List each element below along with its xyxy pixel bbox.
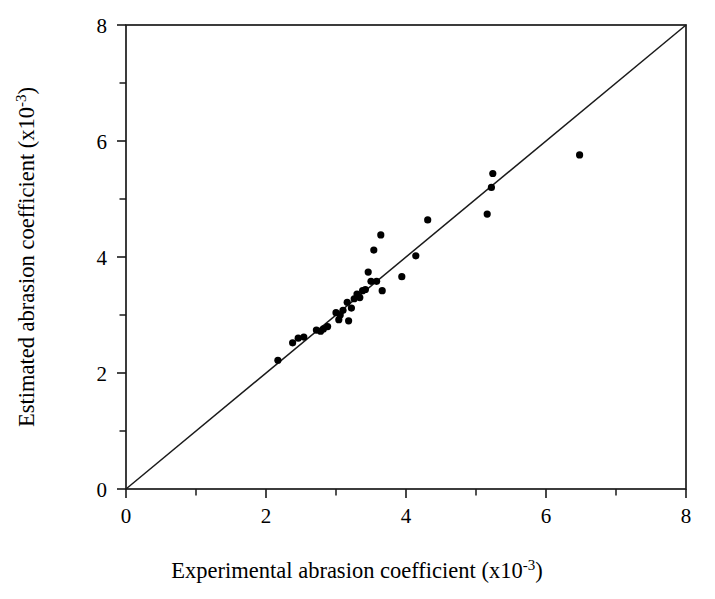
data-point bbox=[356, 294, 363, 301]
data-point bbox=[576, 151, 583, 158]
data-point bbox=[377, 231, 384, 238]
data-point bbox=[484, 210, 491, 217]
data-point bbox=[489, 170, 496, 177]
data-point bbox=[373, 278, 380, 285]
data-point bbox=[424, 216, 431, 223]
data-point bbox=[365, 268, 372, 275]
x-axis-title: Experimental abrasion coefficient (x10-3… bbox=[171, 557, 542, 583]
y-tick-label: 2 bbox=[97, 362, 108, 386]
svg-text:Estimated abrasion coefficient: Estimated abrasion coefficient (x10-3) bbox=[13, 87, 39, 427]
scatter-plot-canvas: 02468 02468 Experimental abrasion coeffi… bbox=[0, 0, 715, 599]
svg-text:Experimental abrasion coeffici: Experimental abrasion coefficient (x10-3… bbox=[171, 557, 542, 583]
data-point bbox=[274, 357, 281, 364]
x-tick-label: 2 bbox=[261, 504, 272, 528]
y-tick-label: 6 bbox=[97, 130, 108, 154]
y-tick-label: 0 bbox=[97, 478, 108, 502]
x-tick-label: 0 bbox=[121, 504, 132, 528]
x-tick-label: 4 bbox=[401, 504, 412, 528]
data-point bbox=[345, 317, 352, 324]
data-point bbox=[488, 184, 495, 191]
x-tick-label: 8 bbox=[681, 504, 692, 528]
data-point bbox=[348, 304, 355, 311]
abrasion-coefficient-scatter-figure: 02468 02468 Experimental abrasion coeffi… bbox=[0, 0, 715, 599]
y-tick-label: 8 bbox=[97, 14, 108, 38]
data-point bbox=[300, 333, 307, 340]
data-point bbox=[370, 246, 377, 253]
data-point bbox=[324, 323, 331, 330]
data-point bbox=[412, 252, 419, 259]
x-tick-label: 6 bbox=[541, 504, 552, 528]
data-point bbox=[398, 273, 405, 280]
data-point bbox=[289, 339, 296, 346]
y-axis-title: Estimated abrasion coefficient (x10-3) bbox=[13, 87, 39, 427]
data-point bbox=[344, 299, 351, 306]
y-tick-label: 4 bbox=[97, 246, 108, 270]
data-point bbox=[339, 307, 346, 314]
data-point bbox=[379, 287, 386, 294]
data-point bbox=[362, 286, 369, 293]
